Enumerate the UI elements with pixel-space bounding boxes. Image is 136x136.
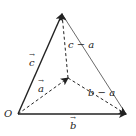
edge-c-to-b [62, 14, 126, 114]
vector-c-label: c [29, 58, 35, 68]
vector-c-text: c [29, 58, 35, 68]
vector-b-minus-a-label: b − a [88, 88, 115, 98]
vector-c-minus-a-label: c − a [68, 40, 94, 50]
diagram-canvas [0, 0, 136, 136]
origin-label: O [4, 109, 12, 119]
vector-b-label: b [70, 121, 76, 131]
vector-b-text: b [70, 121, 76, 131]
vector-a-text: a [38, 84, 44, 94]
vector-diagram: O c c − a a b − a b [0, 0, 136, 136]
vector-a-label: a [38, 84, 44, 94]
edge-o-to-c [18, 14, 62, 114]
